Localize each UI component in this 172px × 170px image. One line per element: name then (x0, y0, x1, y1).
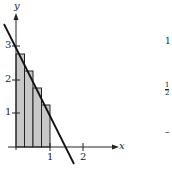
rect-4 (42, 105, 51, 147)
x-tick-1: 1 (47, 151, 53, 162)
x-tick-2: 2 (80, 151, 86, 162)
x-axis-arrow-icon (112, 145, 119, 150)
side-label-dash: – (165, 127, 170, 137)
y-axis-label: y (14, 0, 20, 11)
y-tick-1: 1 (5, 106, 11, 117)
y-tick-3: 3 (5, 39, 11, 50)
side-label-one: 1 (165, 36, 171, 46)
riemann-sum-chart (0, 0, 172, 170)
side-label-half: 1 2 (165, 82, 169, 97)
rectangles (16, 54, 50, 147)
x-axis-label: x (119, 140, 125, 151)
rect-1 (16, 54, 25, 147)
y-axis-arrow-icon (14, 13, 19, 20)
y-tick-2: 2 (5, 73, 11, 84)
half-denominator: 2 (165, 90, 169, 97)
rect-2 (25, 71, 34, 147)
